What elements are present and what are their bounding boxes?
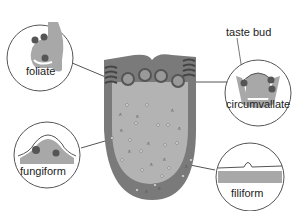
fungiform-papilla-inset: [14, 122, 80, 188]
filiform-label: filiform: [231, 188, 263, 199]
filiform-papilla-inset: [216, 143, 284, 211]
fungiform-label: fungiform: [20, 166, 66, 177]
foliate-label: foliate: [26, 66, 55, 77]
filiform-connector-line: [190, 165, 215, 170]
foliate-papilla-inset: [7, 22, 73, 91]
circumvallate-papilla-inset: [225, 60, 291, 126]
tongue-papillae-diagram: ʌʌʌʌ ʌʌʌʌ ʌʌʌʌ: [0, 0, 298, 211]
circumvallate-label: circumvallate: [226, 99, 290, 110]
tongue-illustration: ʌʌʌʌ ʌʌʌʌ ʌʌʌʌ: [104, 54, 196, 200]
taste-bud-label: taste bud: [226, 27, 271, 38]
